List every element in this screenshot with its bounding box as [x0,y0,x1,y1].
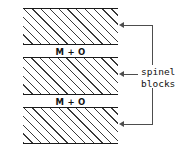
spinel-block-bottom [23,107,118,144]
connector-line-lower [152,88,153,125]
spinel-block-middle [23,57,118,95]
spinel-block-top [23,8,118,45]
interlayer-label-upper: M + O [55,47,85,56]
leader-line-bottom [124,124,153,125]
annotation-line-1: spinel [141,66,175,78]
interlayer-band-lower: M + O [23,95,118,107]
diagram-canvas: M + O M + O spinel blocks [0,0,188,154]
leader-line-top [124,25,153,26]
arrow-head-icon-top [119,22,124,28]
spinel-blocks-annotation: spinel blocks [141,66,175,89]
arrow-head-icon-middle [119,71,124,77]
arrow-head-icon-bottom [119,121,124,127]
leader-line-middle [124,74,138,75]
interlayer-label-lower: M + O [55,97,85,106]
interlayer-band-upper: M + O [23,45,118,57]
annotation-line-2: blocks [141,78,175,90]
connector-line-upper [152,25,153,65]
